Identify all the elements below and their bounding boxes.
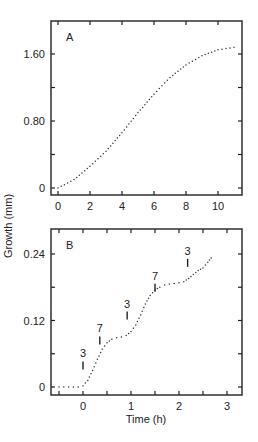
x-tick-label: 3 xyxy=(224,400,230,412)
y-tick-label: 0 xyxy=(39,182,45,194)
x-tick-label: 4 xyxy=(119,200,125,212)
x-tick-label: 2 xyxy=(176,400,182,412)
x-tick-label: 1 xyxy=(128,400,134,412)
y-tick-label: 0.80 xyxy=(24,115,45,127)
panel-label: B xyxy=(66,239,73,251)
annotation: 7 xyxy=(97,322,103,344)
x-tick-label: 0 xyxy=(80,400,86,412)
y-tick-label: 1.60 xyxy=(24,48,45,60)
annotation: 3 xyxy=(80,347,86,369)
svg-text:3: 3 xyxy=(185,245,191,257)
data-series xyxy=(57,47,235,189)
panel-a: 024681000.801.60A xyxy=(24,21,242,212)
svg-text:7: 7 xyxy=(152,270,158,282)
annotation: 3 xyxy=(124,298,130,320)
panel-b: 012300.120.24B37373 xyxy=(24,229,242,412)
panel-label: A xyxy=(66,31,74,43)
svg-text:7: 7 xyxy=(97,322,103,334)
x-axis-label: Time (h) xyxy=(126,413,167,425)
annotation: 3 xyxy=(185,245,191,267)
x-tick-label: 8 xyxy=(183,200,189,212)
growth-chart: 024681000.801.60A 012300.120.24B37373 Gr… xyxy=(0,0,258,442)
y-axis-label: Growth (mm) xyxy=(2,194,14,258)
x-tick-label: 0 xyxy=(55,200,61,212)
svg-text:3: 3 xyxy=(124,298,130,310)
data-series xyxy=(58,257,212,388)
plot-frame xyxy=(51,21,242,195)
x-tick-label: 6 xyxy=(151,200,157,212)
y-tick-label: 0 xyxy=(39,381,45,393)
x-tick-label: 10 xyxy=(212,200,224,212)
y-tick-label: 0.12 xyxy=(24,315,45,327)
plot-frame xyxy=(51,229,242,395)
x-tick-label: 2 xyxy=(87,200,93,212)
y-tick-label: 0.24 xyxy=(24,248,45,260)
svg-text:3: 3 xyxy=(80,347,86,359)
